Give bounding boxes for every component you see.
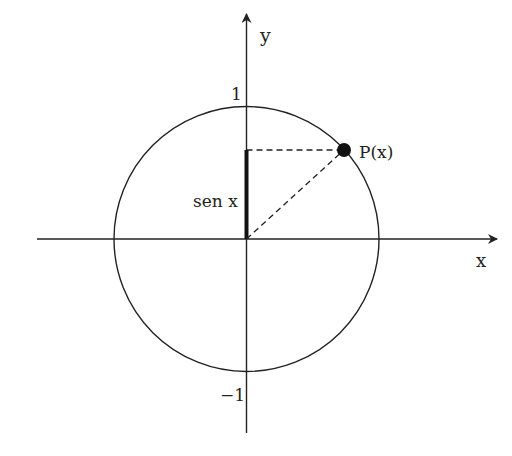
diagram-canvas: P(x) sen x y x 1 −1 [0, 0, 512, 456]
y-tick-minus-1: −1 [220, 385, 245, 405]
y-tick-1: 1 [231, 84, 242, 104]
radius-line [247, 150, 345, 239]
point-p [337, 143, 351, 157]
point-p-label: P(x) [359, 142, 393, 162]
y-axis-label: y [259, 24, 271, 46]
sine-label: sen x [193, 191, 238, 211]
x-axis-label: x [476, 250, 486, 271]
unit-circle-diagram: P(x) sen x y x 1 −1 [0, 0, 512, 456]
